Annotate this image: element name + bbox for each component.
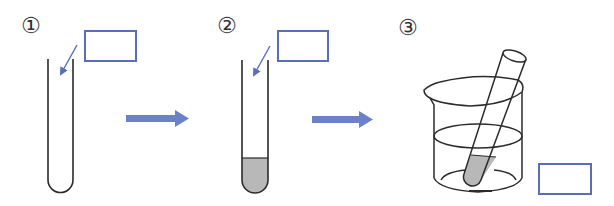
experiment-diagram: ① ② ③ bbox=[0, 0, 614, 206]
test-tube-empty-icon bbox=[48, 59, 73, 192]
pointer-arrow-icon bbox=[62, 45, 77, 72]
right-arrow-icon bbox=[312, 111, 373, 128]
test-tube-filled-icon bbox=[242, 60, 268, 193]
right-arrow-icon bbox=[126, 110, 189, 127]
test-tube-tilted-icon bbox=[463, 48, 527, 186]
diagram-artwork bbox=[0, 0, 614, 206]
